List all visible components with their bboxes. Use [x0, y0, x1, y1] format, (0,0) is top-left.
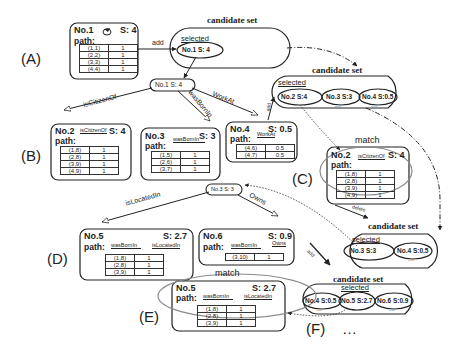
node-2-path-label: path: — [55, 136, 76, 146]
match-e-label: match — [215, 268, 240, 278]
node-6-path-table: (3,10)1 — [225, 253, 284, 261]
candidate-set-1-item-0: No.1 S: 4 — [182, 46, 210, 53]
candidate-set-2-more-0: ... — [335, 101, 341, 108]
candidate-set-3-selected: selected — [352, 235, 380, 244]
node-5-copy-path-table: (1,8)1 (2,8)1 (3,9)1 — [197, 305, 256, 327]
node-6-relation-1: Owns — [272, 240, 286, 247]
node-5-path-table: (1,8)1 (2,8)1 (3,9)1 — [105, 254, 164, 276]
node-5-relation-1: isLocatedIn — [152, 242, 180, 249]
step-label-f: (F) — [306, 320, 325, 337]
candidate-set-3-item-1: No.4 S:0.5 — [397, 247, 428, 254]
cursor-arrow-icon — [104, 28, 110, 32]
step-label-a: (A) — [21, 50, 41, 67]
candidate-set-4-selected: selected — [341, 283, 369, 292]
candidate-set-1-title: candidate set — [207, 15, 257, 25]
node-4-title: No.4 — [230, 124, 250, 134]
candidate-set-2-selected: selected — [278, 78, 306, 87]
node-2-score: S: 4 — [109, 126, 126, 136]
node-5-relation-0: wasBornIn — [111, 242, 141, 249]
node-2-path-table: (1,8)1 (2,8)1 (3,9)1 (4,9)1 — [60, 146, 119, 175]
edge-dashdot-cs2-cs3 — [366, 108, 440, 230]
node-3-relation-0: wasBornIn — [173, 136, 205, 143]
candidate-set-2-item-0: No.2 S:4 — [281, 93, 307, 100]
candidate-set-3-title: candidate set — [368, 221, 418, 231]
node-2-copy-score: S: 4 — [388, 150, 405, 160]
expand-node-1-label: No.1 S: 4 — [155, 81, 182, 88]
candidate-set-4-more-2: ... — [389, 305, 395, 312]
node-5-copy-relation-1: isLocatedIn — [244, 293, 272, 300]
candidate-set-3-more-1: ... — [408, 255, 414, 262]
node-4-relation-0: WorkAt — [257, 131, 275, 138]
candidate-set-3-more-0: ... — [365, 255, 371, 262]
step-label-c: (C) — [292, 170, 313, 187]
match-c-label: match — [355, 135, 380, 145]
candidate-set-4-more-0: ... — [316, 305, 322, 312]
node-2-copy-relation-0: isCitizenOf — [358, 153, 385, 160]
edge-add-1-label: add — [152, 39, 164, 46]
node-2-relation-0: isCitizenOf — [80, 127, 107, 134]
node-3-path-label: path: — [145, 141, 166, 151]
node-5-copy-path-label: path: — [176, 293, 197, 303]
candidate-set-1-selected: selected — [181, 34, 209, 43]
candidate-set-2-item-1: No.3 S:3 — [326, 93, 352, 100]
candidate-set-4-more-1: ... — [352, 305, 358, 312]
node-5-copy-title: No.5 — [176, 283, 196, 293]
node-4-path-table: (4,6)0.5 (4,7)0.5 — [236, 144, 295, 159]
candidate-set-4-item-2: No.6 S:0.9 — [377, 297, 408, 304]
node-2-copy-path-label: path: — [331, 160, 352, 170]
step-label-e: (E) — [139, 308, 159, 325]
node-1-score: S: 4 — [120, 25, 137, 35]
candidate-set-2-title: candidate set — [312, 65, 362, 75]
node-1-path-table: (1,1)1 (2,2)1 (3,3)1 (4,4)1 — [79, 44, 138, 73]
node-3-path-table: (1,5)1 (2,6)1 (3,7)1 — [151, 151, 210, 173]
node-5-copy-relation-0: wasBornIn — [203, 293, 233, 300]
step-label-d: (D) — [47, 250, 68, 267]
node-5-title: No.5 — [84, 231, 104, 241]
step-ellipsis: … — [342, 320, 357, 337]
node-6-title: No.6 — [203, 231, 223, 241]
node-6-path-label: path: — [203, 242, 224, 252]
edge-dotted-to-match — [300, 105, 340, 150]
node-3-title: No.3 — [145, 131, 165, 141]
node-6-relation-0: wasBornIn — [231, 242, 261, 249]
node-5-score: S: 2.7 — [163, 231, 187, 241]
candidate-set-2-more-1: ... — [371, 101, 377, 108]
node-2-title: No.2 — [55, 126, 75, 136]
candidate-set-4-item-0: No.4 S:0.5 — [305, 297, 336, 304]
node-4-path-label: path: — [230, 134, 251, 144]
step-label-b: (B) — [21, 147, 41, 164]
node-5-copy-score: S: 2.7 — [252, 283, 276, 293]
candidate-set-4-item-1: No.5 S:2.7 — [341, 297, 372, 304]
edge-dashdot-cs1-cs2 — [287, 47, 357, 66]
node-5-path-label: path: — [84, 242, 105, 252]
candidate-set-2-item-2: No.4 S:0.5 — [362, 93, 393, 100]
node-2-copy-title: No.2 — [331, 150, 351, 160]
expand-node-3-label: No.3 S: 3 — [211, 186, 234, 192]
node-2-copy-path-table: (1,8)1 (2,8)1 (3,9)1 (4,9)1 — [336, 170, 395, 199]
node-1-title: No.1 — [74, 25, 94, 35]
candidate-set-3-item-0: No.3 S:3 — [350, 247, 376, 254]
